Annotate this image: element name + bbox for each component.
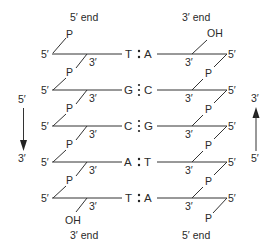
base-right: A [144, 48, 152, 60]
right-strand: OH 3′ 5′ P 3′ 5′ P 3′ 5′ P 3′ 5′ P 3′ 5′ [157, 27, 236, 224]
right-backbone-bond [192, 115, 203, 126]
base-right: T [144, 156, 151, 168]
double-hbond-icon [138, 50, 140, 58]
left-3prime-label: 3′ [89, 92, 97, 104]
right-5prime-label: 5′ [228, 156, 236, 168]
left-backbone-bond [76, 198, 87, 212]
left-top-phosphate-bond [53, 38, 66, 53]
base-right: C [144, 84, 152, 96]
triple-hbond-icon [138, 84, 140, 96]
top-left-5prime-end-label: 5′ end [70, 11, 98, 23]
right-3prime-label: 3′ [185, 128, 193, 140]
left-backbone-bond [76, 126, 87, 140]
base-right: G [144, 120, 153, 132]
right-backbone-bond [214, 54, 227, 67]
right-backbone-bond [192, 187, 203, 198]
base-left: A [124, 156, 132, 168]
right-3prime-label: 3′ [185, 200, 193, 212]
right-arrow-top-label: 3′ [251, 92, 259, 104]
base-left: T [125, 192, 132, 204]
top-right-3prime-end-label: 3′ end [182, 11, 210, 23]
base-left: C [124, 120, 132, 132]
right-phosphate-label: P [205, 67, 212, 79]
left-5prime-label: 5′ [41, 84, 49, 96]
left-5prime-label: 5′ [41, 156, 49, 168]
base-left: T [125, 48, 132, 60]
arrow-down-icon [20, 140, 27, 151]
right-5prime-label: 5′ [228, 192, 236, 204]
right-direction-arrow: 3′ 5′ [251, 92, 260, 164]
right-arrow-bottom-label: 5′ [251, 152, 259, 164]
left-strand: P 5′ 3′ P 5′ 3′ P 5′ 3′ P 5′ 3′ P 5′ 3′ [41, 28, 122, 226]
left-3prime-label: 3′ [89, 128, 97, 140]
right-backbone-bond [214, 90, 227, 103]
right-bottom-phosphate-bond [213, 198, 227, 213]
left-phosphate-label: P [66, 102, 73, 114]
base-right: A [144, 192, 152, 204]
right-phosphate-label: P [205, 103, 212, 115]
right-phosphate-label: P [205, 175, 212, 187]
left-5prime-label: 5′ [41, 48, 49, 60]
left-backbone-bond [76, 54, 87, 68]
left-arrow-top-label: 5′ [18, 93, 26, 105]
right-top-hydroxyl-bond [192, 40, 207, 54]
left-bottom-hydroxyl-label: OH [65, 214, 81, 226]
bottom-right-5prime-end-label: 5′ end [182, 229, 210, 241]
left-backbone-bond [53, 186, 66, 198]
right-5prime-label: 5′ [228, 48, 236, 60]
base-left: G [124, 84, 133, 96]
base-pairs: T A G C C G A T T A [124, 48, 153, 204]
left-phosphate-label: P [66, 174, 73, 186]
left-5prime-label: 5′ [41, 120, 49, 132]
left-3prime-label: 3′ [89, 56, 97, 68]
right-bottom-phosphate-label: P [205, 212, 212, 224]
left-backbone-bond [76, 162, 87, 176]
right-top-hydroxyl-label: OH [207, 27, 223, 39]
right-5prime-label: 5′ [228, 84, 236, 96]
left-phosphate-label: P [66, 66, 73, 78]
left-backbone-bond [53, 78, 66, 90]
left-3prime-label: 3′ [89, 200, 97, 212]
right-backbone-bond [214, 126, 227, 139]
right-phosphate-label: P [205, 139, 212, 151]
dna-diagram: 5′ end 3′ end 3′ end 5′ end 5′ 3′ 3′ 5′ … [0, 0, 278, 249]
left-direction-arrow: 5′ 3′ [18, 93, 27, 164]
triple-hbond-icon [138, 120, 140, 132]
left-backbone-bond [53, 114, 66, 126]
right-3prime-label: 3′ [185, 56, 193, 68]
left-top-phosphate-label: P [66, 28, 73, 40]
right-backbone-bond [214, 162, 227, 175]
left-backbone-bond [76, 90, 87, 104]
left-arrow-bottom-label: 3′ [18, 152, 26, 164]
left-5prime-label: 5′ [41, 192, 49, 204]
left-3prime-label: 3′ [89, 164, 97, 176]
double-hbond-icon [138, 194, 140, 202]
left-phosphate-label: P [66, 138, 73, 150]
right-3prime-label: 3′ [185, 92, 193, 104]
double-hbond-icon [138, 158, 140, 166]
right-backbone-bond [192, 151, 203, 162]
right-3prime-label: 3′ [185, 164, 193, 176]
right-backbone-bond [192, 79, 203, 90]
right-5prime-label: 5′ [228, 120, 236, 132]
bottom-left-3prime-end-label: 3′ end [70, 229, 98, 241]
left-backbone-bond [53, 150, 66, 162]
